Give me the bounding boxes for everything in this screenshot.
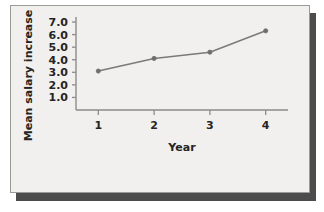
- y-tick-label: 7.0: [49, 16, 69, 29]
- y-tick-label: 4.0: [49, 54, 69, 67]
- data-point: [96, 69, 100, 73]
- y-tick-label: 2.0: [49, 79, 69, 92]
- data-point-markers: [96, 29, 268, 73]
- y-tick-label: 6.0: [49, 29, 69, 42]
- data-point: [152, 56, 156, 60]
- data-series-line: [98, 31, 265, 71]
- figure-root: 1.02.03.04.05.06.07.0 1234 Year Mean sal…: [0, 0, 324, 212]
- data-point: [264, 29, 268, 33]
- x-tick-label: 2: [150, 119, 158, 132]
- y-tick-label: 3.0: [49, 66, 69, 79]
- x-tick-label: 1: [94, 119, 102, 132]
- x-axis-title: Year: [167, 141, 196, 154]
- x-tick-label: 4: [262, 119, 270, 132]
- y-axis-tick-labels: 1.02.03.04.05.06.07.0: [49, 16, 69, 104]
- x-axis-tick-labels: 1234: [94, 119, 269, 132]
- data-point: [208, 50, 212, 54]
- y-tick-label: 1.0: [49, 91, 69, 104]
- x-axis-ticks: [98, 110, 265, 115]
- y-tick-label: 5.0: [49, 41, 69, 54]
- line-chart: 1.02.03.04.05.06.07.0 1234 Year Mean sal…: [10, 5, 310, 193]
- y-axis-title: Mean salary increase (%): [22, 5, 35, 141]
- x-tick-label: 3: [206, 119, 214, 132]
